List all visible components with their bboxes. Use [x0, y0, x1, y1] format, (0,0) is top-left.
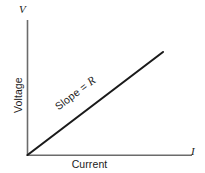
plot-canvas [0, 0, 205, 173]
y-axis-title: Voltage [13, 77, 24, 113]
y-axis-symbol-label: V [19, 4, 26, 15]
voltage-current-figure: V I Voltage Current Slope = R [0, 0, 205, 173]
x-axis-symbol-label: I [191, 146, 195, 157]
x-axis-title: Current [0, 159, 192, 170]
data-series-line [28, 52, 164, 155]
